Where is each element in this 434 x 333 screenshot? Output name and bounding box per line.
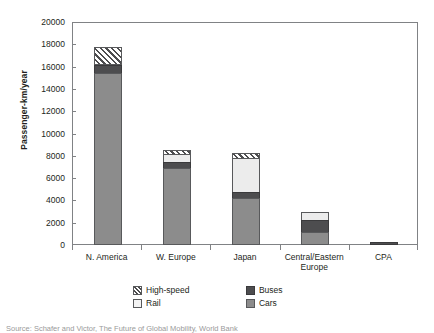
stacked-bar[interactable]	[370, 242, 398, 244]
y-tick-label: 16000	[0, 63, 72, 71]
plot-area	[72, 22, 418, 245]
legend-label-buses: Buses	[259, 285, 283, 295]
stacked-bar[interactable]	[163, 150, 191, 244]
x-tick-mark	[210, 245, 211, 250]
stacked-bar[interactable]	[301, 212, 329, 244]
x-tick-mark	[349, 245, 350, 250]
y-tick-label: 8000	[0, 152, 72, 160]
legend-item-high-speed[interactable]: High-speed	[133, 285, 220, 295]
bar-group-japan	[211, 21, 280, 244]
x-tick-label-cpa: CPA	[340, 252, 426, 262]
bar-segment-cars[interactable]	[232, 198, 260, 245]
y-tick-label: 0	[0, 241, 72, 249]
x-tick-mark	[280, 245, 281, 250]
chart-figure: Passenger-km/year 20000 18000 16000 1400…	[0, 0, 434, 333]
y-tick-label: 18000	[0, 40, 72, 48]
x-tick-mark	[72, 245, 73, 250]
bar-group-cpa	[350, 21, 419, 244]
legend-label-rail: Rail	[146, 298, 161, 308]
stacked-bar[interactable]	[94, 47, 122, 244]
legend-item-buses[interactable]: Buses	[246, 285, 313, 295]
chart-legend: High-speed Buses Rail Cars	[133, 285, 313, 308]
legend-swatch-buses-icon	[246, 286, 255, 295]
y-tick-label: 12000	[0, 107, 72, 115]
y-tick-label: 2000	[0, 219, 72, 227]
bar-segment-buses[interactable]	[370, 242, 398, 245]
y-tick-label: 20000	[0, 18, 72, 26]
bar-segment-rail[interactable]	[232, 158, 260, 194]
legend-label-high-speed: High-speed	[146, 285, 189, 295]
stacked-bar[interactable]	[232, 153, 260, 244]
legend-item-rail[interactable]: Rail	[133, 298, 220, 308]
y-tick-label: 6000	[0, 174, 72, 182]
bar-segment-cars[interactable]	[163, 168, 191, 245]
bar-group-w-europe	[142, 21, 211, 244]
y-tick-label: 4000	[0, 196, 72, 204]
legend-label-cars: Cars	[259, 298, 277, 308]
bar-segment-cars[interactable]	[94, 73, 122, 245]
legend-swatch-cars-icon	[246, 299, 255, 308]
y-tick-label: 10000	[0, 130, 72, 138]
y-tick-label: 14000	[0, 85, 72, 93]
legend-swatch-high-speed-icon	[133, 286, 142, 295]
bar-group-n-america	[73, 21, 142, 244]
bar-group-central-eastern-europe	[281, 21, 350, 244]
x-tick-mark	[417, 245, 418, 250]
figure-caption: Source: Schafer and Victor, The Future o…	[6, 324, 434, 333]
legend-item-cars[interactable]: Cars	[246, 298, 313, 308]
legend-swatch-rail-icon	[133, 299, 142, 308]
bar-segment-cars[interactable]	[301, 232, 329, 245]
bar-segment-high-speed[interactable]	[94, 47, 122, 65]
x-tick-mark	[141, 245, 142, 250]
